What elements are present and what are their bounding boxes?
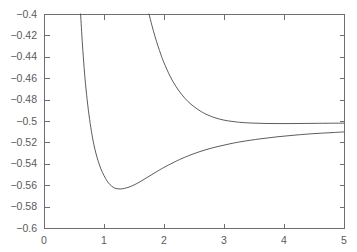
data-curves-group	[81, 14, 344, 189]
x-tick-label: 3	[221, 234, 227, 246]
x-tick-label: 5	[341, 234, 347, 246]
y-tick-labels: −0.6−0.58−0.56−0.54−0.52−0.5−0.48−0.46−0…	[10, 8, 37, 234]
x-tick-label: 1	[101, 234, 107, 246]
x-tick-label: 0	[41, 234, 47, 246]
x-tick-label: 2	[161, 234, 167, 246]
curve-upper-curve	[149, 14, 344, 124]
y-tick-label: −0.52	[10, 136, 37, 148]
y-tick-label: −0.42	[10, 29, 37, 41]
plot-area: 012345 −0.6−0.58−0.56−0.54−0.52−0.5−0.48…	[0, 0, 357, 252]
y-tick-label: −0.54	[10, 157, 37, 169]
y-tick-label: −0.58	[10, 200, 37, 212]
x-tick-labels: 012345	[41, 234, 347, 246]
y-tick-label: −0.46	[10, 72, 37, 84]
y-tick-label: −0.44	[10, 50, 37, 62]
figure-canvas: 012345 −0.6−0.58−0.56−0.54−0.52−0.5−0.48…	[0, 0, 357, 252]
y-tick-label: −0.6	[16, 222, 37, 234]
y-tick-label: −0.56	[10, 179, 37, 191]
y-tick-label: −0.4	[16, 8, 37, 20]
x-tick-label: 4	[281, 234, 287, 246]
y-tick-label: −0.5	[16, 115, 37, 127]
curve-lower-curve	[81, 14, 344, 189]
y-tick-label: −0.48	[10, 93, 37, 105]
